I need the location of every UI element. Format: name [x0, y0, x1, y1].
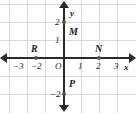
x-tick-label-neg3: −3: [13, 62, 24, 71]
y-axis-up-arrow-icon: [59, 1, 69, 8]
gridline-horizontal: [0, 94, 136, 95]
y-tick-label-2: 2: [55, 18, 60, 27]
x-axis-line: [5, 57, 131, 59]
point-marker-r: [34, 56, 38, 60]
x-tick-label-3: 3: [114, 62, 119, 71]
point-marker-n: [97, 56, 101, 60]
point-marker-p: [62, 92, 66, 96]
x-axis-right-arrow-icon: [129, 53, 136, 63]
point-label-n: N: [95, 44, 102, 54]
point-label-m: M: [69, 27, 78, 37]
x-tick-label-neg2: −2: [31, 62, 42, 71]
x-axis-left-arrow-icon: [0, 53, 7, 63]
coordinate-plane-figure: y x O −3 −2 1 2 3 2 1 −2 M R N P: [0, 0, 136, 113]
y-tick-label-neg2: −2: [50, 90, 61, 99]
y-tick-label-1: 1: [55, 36, 60, 45]
y-axis-name: y: [70, 9, 74, 18]
x-axis-name: x: [124, 63, 129, 72]
y-axis-down-arrow-icon: [59, 105, 69, 112]
point-marker-m: [62, 20, 66, 24]
point-label-r: R: [31, 44, 38, 54]
gridline-horizontal: [0, 40, 136, 41]
x-tick-label-2: 2: [96, 62, 101, 71]
gridline-horizontal: [0, 22, 136, 23]
point-label-p: P: [69, 79, 75, 89]
gridline-horizontal: [0, 76, 136, 77]
x-tick-label-1: 1: [78, 62, 83, 71]
origin-label: O: [55, 62, 62, 71]
